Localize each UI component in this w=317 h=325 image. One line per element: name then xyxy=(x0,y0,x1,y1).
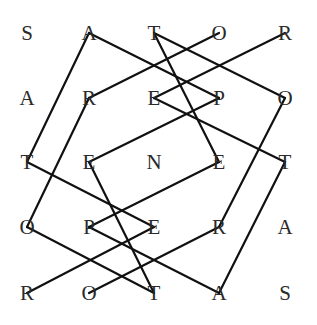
grid-letter: O xyxy=(277,86,292,110)
connection-line xyxy=(219,98,285,227)
grid-letter: P xyxy=(213,86,225,110)
grid-letter: T xyxy=(148,281,161,305)
grid-letter: A xyxy=(81,21,97,45)
diagram-canvas: SATORAREPOTENETOPERAROTAS xyxy=(0,0,317,325)
sator-square-diagram: SATORAREPOTENETOPERAROTAS xyxy=(0,0,317,325)
grid-letter: A xyxy=(211,281,227,305)
grid-letter: E xyxy=(148,86,161,110)
grid-letter: R xyxy=(278,21,292,45)
grid-letter: T xyxy=(21,150,34,174)
grid-letter: T xyxy=(279,150,292,174)
grid-letter: N xyxy=(146,150,161,174)
connection-line xyxy=(27,33,89,162)
connection-line xyxy=(27,98,89,227)
grid-letter: O xyxy=(81,281,96,305)
grid-letter: O xyxy=(211,21,226,45)
connection-line xyxy=(219,162,285,293)
grid-letter: R xyxy=(212,215,226,239)
grid-letter: R xyxy=(20,281,34,305)
connection-line xyxy=(89,162,154,293)
grid-letter: S xyxy=(279,281,291,305)
grid-letter: S xyxy=(21,21,33,45)
grid-letter: T xyxy=(148,21,161,45)
grid-letter: E xyxy=(148,215,161,239)
grid-letter: P xyxy=(83,215,95,239)
grid-letter: A xyxy=(277,215,293,239)
grid-letter: R xyxy=(82,86,96,110)
connection-line xyxy=(154,33,219,162)
grid-letter: A xyxy=(19,86,35,110)
grid-letter: O xyxy=(19,215,34,239)
grid-letter: E xyxy=(213,150,226,174)
grid-letter: E xyxy=(83,150,96,174)
